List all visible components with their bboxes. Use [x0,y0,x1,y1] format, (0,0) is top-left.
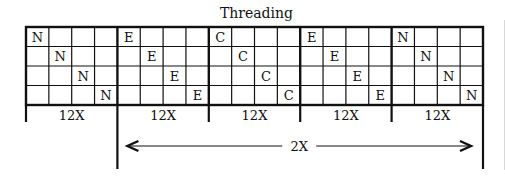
threading-cell-letter: N [443,69,454,84]
repeat-label: 12X [333,108,360,123]
threading-cell-letter: E [307,30,317,45]
threading-cell-letter: E [193,88,203,103]
repeat-label: 12X [150,108,177,123]
threading-cell-letter: N [55,49,66,64]
threading-cell-letter: N [100,88,111,103]
threading-cell-letter: C [261,69,271,84]
repeat-label: 12X [59,108,86,123]
threading-cell-letter: C [284,88,294,103]
threading-cell-letter: N [466,88,477,103]
threading-cell-letter: E [124,30,134,45]
repeat-label: 12X [242,108,269,123]
threading-cell-letter: E [147,49,157,64]
threading-cell-letter: C [215,30,225,45]
threading-cell-letter: E [375,88,385,103]
threading-cell-letter: N [32,30,43,45]
threading-cell-letter: N [397,30,408,45]
threading-diagram: NNNN12XEEEE12XCCCC12XEEEE12XNNNN12X2X [0,0,505,177]
threading-cell-letter: E [353,69,363,84]
threading-cell-letter: E [330,49,340,64]
threading-cell-letter: E [170,69,180,84]
threading-cell-letter: N [420,49,431,64]
span-label: 2X [290,139,308,154]
threading-cell-letter: C [238,49,248,64]
repeat-label: 12X [424,108,451,123]
threading-cell-letter: N [77,69,88,84]
